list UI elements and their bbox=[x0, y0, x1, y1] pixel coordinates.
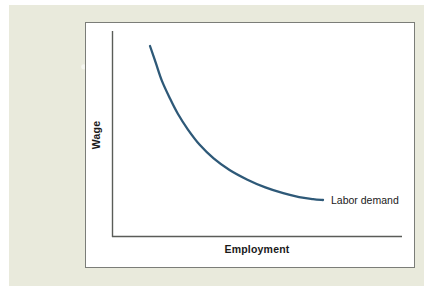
y-axis-title: Wage bbox=[90, 121, 102, 149]
labor-demand-curve-label: Labor demand bbox=[331, 194, 399, 206]
figure-root: Wage Employment Labor demand bbox=[0, 0, 433, 291]
x-axis-title: Employment bbox=[224, 243, 289, 255]
chart-panel bbox=[85, 22, 415, 268]
